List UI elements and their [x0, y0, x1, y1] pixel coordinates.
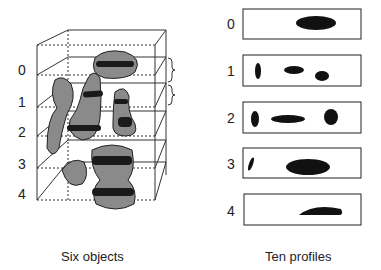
profile-label-1: 1	[227, 63, 235, 79]
profile-label-0: 0	[227, 16, 235, 32]
caption-ten-profiles: Ten profiles	[265, 249, 331, 264]
level-label-1: 1	[18, 94, 26, 110]
level-label-3: 3	[18, 156, 26, 172]
level-label-0: 0	[18, 62, 26, 78]
profile-label-2: 2	[227, 110, 235, 126]
diagram-canvas	[0, 0, 381, 270]
profile-label-4: 4	[227, 203, 235, 219]
caption-six-objects: Six objects	[61, 249, 124, 264]
profile-label-3: 3	[227, 156, 235, 172]
level-label-2: 2	[18, 124, 26, 140]
level-label-4: 4	[18, 186, 26, 202]
